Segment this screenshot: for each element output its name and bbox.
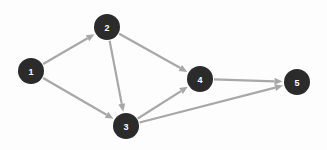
graph-edge-2-to-4 [119, 34, 180, 68]
graph-node-circle-3[interactable] [113, 113, 139, 139]
directed-graph-figure: 12345 [0, 0, 327, 150]
graph-node-circle-2[interactable] [94, 14, 120, 40]
graph-arrowhead-2-to-3 [118, 103, 125, 112]
graph-edge-1-to-2 [43, 38, 87, 64]
graph-edge-4-to-5 [214, 79, 275, 81]
graph-edge-2-to-3 [110, 41, 122, 104]
graph-node-5[interactable]: 5 [284, 69, 310, 95]
graph-node-circle-1[interactable] [18, 58, 44, 84]
graph-node-circle-5[interactable] [284, 69, 310, 95]
graph-node-1[interactable]: 1 [18, 58, 44, 84]
graph-node-circle-4[interactable] [187, 66, 213, 92]
graph-node-3[interactable]: 3 [113, 113, 139, 139]
graph-edge-1-to-3 [43, 78, 106, 115]
edge-layer [43, 34, 283, 123]
node-layer: 12345 [18, 14, 310, 139]
graph-arrowhead-4-to-5 [274, 78, 282, 85]
graph-node-2[interactable]: 2 [94, 14, 120, 40]
graph-canvas: 12345 [0, 0, 327, 150]
graph-node-4[interactable]: 4 [187, 66, 213, 92]
graph-arrowhead-3-to-5 [274, 84, 283, 91]
